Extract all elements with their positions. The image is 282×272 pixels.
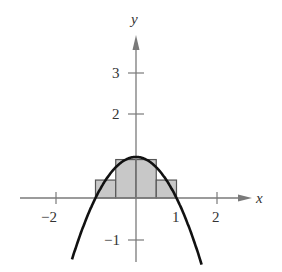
x-axis-arrow-icon xyxy=(238,195,252,202)
rectangle-1 xyxy=(96,180,116,198)
y-tick-label-2: 2 xyxy=(112,106,120,122)
y-axis-label: y xyxy=(129,11,138,27)
x-tick-label-neg2: −2 xyxy=(41,209,57,225)
function-graph: y x −2 1 2 3 2 −1 xyxy=(0,0,282,272)
y-tick-label-3: 3 xyxy=(112,65,120,81)
x-tick-label-1: 1 xyxy=(172,209,180,225)
x-tick-label-2: 2 xyxy=(212,209,220,225)
rectangle-4 xyxy=(156,180,176,198)
y-axis-arrow-icon xyxy=(133,35,140,50)
y-tick-label-neg1: −1 xyxy=(104,232,120,248)
axes xyxy=(20,35,252,262)
x-axis-label: x xyxy=(255,190,263,206)
